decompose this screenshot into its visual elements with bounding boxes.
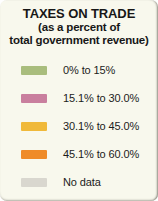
legend-title-block: TAXES ON TRADE (as a percent of total go… <box>0 0 158 47</box>
legend-entry-no-data: No data <box>0 168 158 196</box>
legend-subtitle-line-1: (as a percent of <box>0 21 158 34</box>
color-swatch-45-to-60 <box>21 150 47 159</box>
color-swatch-15-to-30 <box>21 94 47 103</box>
color-swatch-no-data <box>21 178 47 187</box>
legend-entry-0-to-15: 0% to 15% <box>0 56 158 84</box>
color-swatch-0-to-15 <box>21 66 47 75</box>
legend-entry-15-to-30: 15.1% to 30.0% <box>0 84 158 112</box>
color-swatch-30-to-45 <box>21 122 47 131</box>
map-legend-card: TAXES ON TRADE (as a percent of total go… <box>0 0 158 201</box>
legend-label-0-to-15: 0% to 15% <box>63 64 115 76</box>
legend-label-45-to-60: 45.1% to 60.0% <box>63 148 139 160</box>
legend-entry-45-to-60: 45.1% to 60.0% <box>0 140 158 168</box>
legend-entry-list: 0% to 15% 15.1% to 30.0% 30.1% to 45.0% … <box>0 56 158 196</box>
legend-subtitle-line-2: total government revenue) <box>0 34 158 47</box>
legend-title: TAXES ON TRADE <box>0 7 158 21</box>
legend-label-30-to-45: 30.1% to 45.0% <box>63 120 139 132</box>
legend-label-15-to-30: 15.1% to 30.0% <box>63 92 139 104</box>
legend-entry-30-to-45: 30.1% to 45.0% <box>0 112 158 140</box>
legend-label-no-data: No data <box>63 176 101 188</box>
